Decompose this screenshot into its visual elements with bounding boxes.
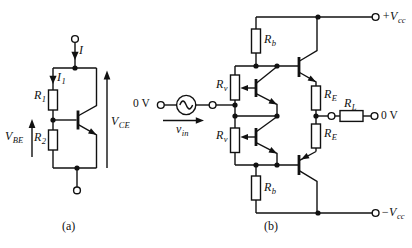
schematic-figure: I I1 R1 R2 VBE VCE (a) 0 V vin Rv Rv Rb …: [0, 0, 412, 248]
schematic-canvas: [0, 0, 412, 248]
terminal-vcc-positive: [372, 14, 379, 21]
label-vcc-negative: −Vcc: [381, 206, 404, 220]
caption-b: (b): [264, 220, 278, 232]
label-re-upper: RE: [324, 88, 337, 102]
circuit-a-schematic: [29, 36, 111, 194]
label-current-I: I: [79, 44, 84, 58]
caption-a: (a): [62, 220, 75, 232]
transistor-output-lower-pnp: [299, 152, 317, 214]
pot-rv-upper-symbol: [231, 75, 240, 100]
signal-source: [177, 95, 196, 114]
label-re-lower: RE: [324, 127, 337, 141]
label-rb-lower: Rb: [264, 181, 276, 195]
terminal-input-left: [157, 102, 164, 109]
node-dot: [274, 162, 279, 167]
npn-emitter-arrow-icon: [88, 128, 97, 135]
npn-emitter-arrow-icon: [308, 75, 316, 82]
pot-wiper-arrow-icon: [240, 134, 248, 140]
label-vbe: VBE: [5, 130, 23, 144]
label-current-I1: I1: [57, 71, 66, 85]
node-dot: [253, 63, 258, 68]
resistor-rl-symbol: [340, 111, 363, 122]
terminal-vcc-negative: [372, 210, 379, 217]
resistor-rb-upper-symbol: [252, 29, 261, 53]
vce-measure-arrow: [104, 71, 111, 169]
transistor-output-upper-npn: [299, 17, 317, 86]
pot-rv-lower-symbol: [231, 128, 240, 153]
node-dot: [315, 210, 320, 215]
label-vcc-positive: +Vcc: [382, 10, 405, 24]
resistor-re-lower-symbol: [312, 124, 321, 148]
current-arrow-I1-icon: [49, 76, 56, 84]
label-r1: R1: [34, 89, 46, 103]
label-rl: RL: [344, 97, 357, 111]
resistor-r1-symbol: [49, 90, 58, 110]
resistor-rb-lower-symbol: [252, 176, 261, 200]
terminal-bottom-a: [74, 187, 81, 194]
transistor-driver-upper-npn: [256, 67, 277, 116]
current-arrow-I-icon: [71, 52, 78, 60]
label-rv-upper: Rv: [216, 78, 228, 92]
pnp-emitter-arrow-icon: [301, 153, 310, 160]
terminal-output-reference: [371, 113, 378, 120]
transistor-driver-lower-npn: [256, 117, 277, 165]
label-output-0v: 0 V: [381, 110, 398, 122]
transistor-q1-npn: [78, 68, 97, 168]
terminal-top-a: [72, 36, 79, 43]
pot-wiper-arrow-icon: [240, 85, 248, 91]
terminal-input-right: [209, 102, 216, 109]
label-vin: vin: [176, 123, 188, 137]
label-r2: R2: [34, 131, 46, 145]
label-rv-lower: Rv: [216, 129, 228, 143]
label-rb-upper: Rb: [264, 33, 276, 47]
node-dot: [315, 14, 320, 19]
npn-emitter-arrow-icon: [269, 98, 278, 104]
resistor-re-upper-symbol: [312, 86, 321, 110]
resistor-r2-symbol: [49, 130, 58, 150]
terminal-output: [328, 113, 335, 120]
npn-emitter-arrow-icon: [269, 147, 278, 153]
label-vce: VCE: [111, 115, 130, 129]
label-input-0v: 0 V: [133, 98, 150, 110]
